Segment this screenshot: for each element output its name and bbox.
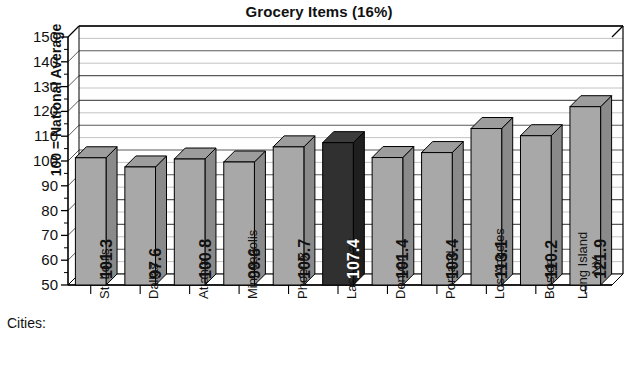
bar-value-label: 97.6 <box>148 248 164 279</box>
bar-value-label: 110.2 <box>544 240 560 279</box>
bar-value-label: 107.4 <box>346 239 362 279</box>
bar-value-label: 113.1 <box>494 240 510 279</box>
y-tick-label: 100 <box>14 153 58 168</box>
y-tick-label: 70 <box>14 227 58 242</box>
chart-container: Grocery Items (16%) 100 = National Avera… <box>0 0 638 379</box>
bar-value-label: 103.4 <box>445 239 461 279</box>
x-tick-label-line1: Long Island <box>576 232 590 299</box>
bar-value-label: 101.4 <box>395 239 411 279</box>
y-tick-label: 60 <box>14 252 58 267</box>
bar-value-label: 105.7 <box>297 239 313 279</box>
y-tick-label: 50 <box>14 277 58 292</box>
y-tick-label: 130 <box>14 79 58 94</box>
plot-area <box>0 0 638 379</box>
bar-value-label: 99.6 <box>247 248 263 279</box>
bar-value-label: 101.3 <box>99 239 115 279</box>
bar-value-label: 100.8 <box>198 239 214 279</box>
y-tick-label: 140 <box>14 54 58 69</box>
y-tick-label: 150 <box>14 29 58 44</box>
y-tick-label: 90 <box>14 178 58 193</box>
y-tick-label: 110 <box>14 128 58 143</box>
y-tick-label: 120 <box>14 103 58 118</box>
y-tick-label: 80 <box>14 203 58 218</box>
bar-value-label: 121.9 <box>593 239 609 279</box>
